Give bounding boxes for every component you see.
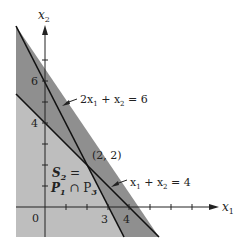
x2-tick-label-4: 4 bbox=[31, 117, 38, 130]
x1-tick-label-3: 3 bbox=[101, 213, 108, 226]
origin-label: 0 bbox=[32, 212, 39, 225]
x2-axis-arrow-icon bbox=[42, 25, 48, 35]
x1-tick-label-4: 4 bbox=[123, 213, 130, 226]
x2-axis-label: x2 bbox=[38, 8, 50, 24]
equation-label-x1-plus-x2-eq-4: x1 + x2 = 4 bbox=[130, 176, 191, 191]
feasible-region-diagram: x2 x1 0 3 4 6 4 2x1 + x2 = 6 (2, 2) S2 =… bbox=[0, 0, 244, 245]
intersection-point-label: (2, 2) bbox=[92, 149, 122, 162]
region-label-p1-cap-p3: P1 ∩ P3 bbox=[50, 181, 97, 197]
x2-tick-label-6: 6 bbox=[31, 75, 38, 88]
region-label-s2: S2 = bbox=[52, 166, 80, 182]
equation-label-2x1-plus-x2-eq-6: 2x1 + x2 = 6 bbox=[80, 93, 148, 108]
x1-axis-arrow-icon bbox=[209, 204, 219, 210]
x1-axis-label: x1 bbox=[222, 200, 234, 216]
